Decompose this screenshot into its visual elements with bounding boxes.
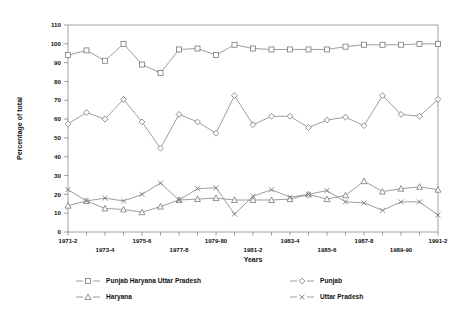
- marker-square: [269, 47, 274, 52]
- legend-label: Punjab: [320, 277, 342, 285]
- marker-triangle: [213, 195, 219, 201]
- chart-figure: 0102030405060708090100110 1971-21973-419…: [0, 0, 461, 314]
- marker-square: [306, 47, 311, 52]
- marker-diamond: [269, 113, 275, 119]
- marker-square: [66, 53, 71, 58]
- marker-diamond: [213, 130, 219, 136]
- marker-square: [214, 53, 219, 58]
- marker-square: [343, 44, 348, 49]
- marker-square: [86, 279, 91, 284]
- marker-square: [362, 42, 367, 47]
- legend-item-uttar-pradesh[interactable]: Uttar Pradesh: [290, 293, 363, 300]
- marker-diamond: [343, 114, 349, 120]
- legend-item-punjab[interactable]: Punjab: [290, 277, 342, 285]
- marker-square: [251, 46, 256, 51]
- x-tick-label: 1971-2: [59, 237, 79, 244]
- legend-label: Uttar Pradesh: [320, 293, 363, 300]
- marker-square: [288, 47, 293, 52]
- marker-cross: [300, 295, 305, 300]
- marker-diamond: [250, 122, 256, 128]
- marker-square: [140, 62, 145, 67]
- x-tick-label: 1981-2: [244, 246, 264, 253]
- marker-cross: [232, 212, 237, 217]
- marker-diamond: [299, 278, 305, 284]
- x-tick-label: 1983-4: [281, 237, 301, 244]
- y-axis-title: Percentage of total: [16, 97, 24, 160]
- marker-triangle: [85, 294, 91, 300]
- marker-cross: [158, 181, 163, 186]
- y-tick-label: 30: [54, 172, 61, 179]
- marker-diamond: [287, 113, 293, 119]
- x-tick-label: 1989-90: [390, 246, 413, 253]
- marker-diamond: [324, 117, 330, 123]
- x-tick-label: 1985-6: [318, 246, 338, 253]
- x-tick-label: 1991-2: [429, 237, 449, 244]
- x-tick-label: 1977-8: [170, 246, 190, 253]
- legend-label: Haryana: [106, 293, 132, 301]
- data-series: [65, 41, 441, 217]
- legend-item-punjab-haryana-uttar-pradesh[interactable]: Punjab Haryana Uttar Pradesh: [76, 277, 201, 285]
- series-punjab-haryana-uttar-pradesh: [66, 41, 441, 75]
- y-tick-label: 100: [51, 40, 62, 47]
- y-tick-label: 50: [54, 134, 61, 141]
- marker-cross: [380, 208, 385, 213]
- legend-item-haryana[interactable]: Haryana: [76, 293, 132, 301]
- y-tick-label: 20: [54, 191, 61, 198]
- marker-square: [84, 48, 89, 53]
- marker-diamond: [65, 121, 71, 127]
- marker-square: [436, 41, 441, 46]
- marker-square: [103, 58, 108, 63]
- marker-diamond: [232, 93, 238, 99]
- y-tick-label: 90: [54, 59, 61, 66]
- marker-diamond: [361, 123, 367, 129]
- y-tick-label: 60: [54, 115, 61, 122]
- y-tick-label: 10: [54, 209, 61, 216]
- y-tick-label: 110: [51, 21, 62, 28]
- y-tick-label: 80: [54, 78, 61, 85]
- marker-triangle: [158, 203, 164, 209]
- x-tick-label: 1973-4: [96, 246, 116, 253]
- marker-triangle: [361, 178, 367, 184]
- marker-square: [232, 42, 237, 47]
- y-tick-label: 40: [54, 153, 61, 160]
- marker-square: [177, 47, 182, 52]
- legend-label: Punjab Haryana Uttar Pradesh: [106, 277, 201, 285]
- marker-square: [158, 70, 163, 75]
- y-tick-label: 70: [54, 96, 61, 103]
- marker-diamond: [84, 110, 90, 116]
- marker-diamond: [158, 145, 164, 151]
- marker-diamond: [195, 119, 201, 125]
- y-tick-label: 0: [58, 228, 62, 235]
- x-axis-ticks: 1971-21973-41975-61977-81979-801981-2198…: [59, 232, 449, 253]
- marker-square: [417, 41, 422, 46]
- marker-square: [325, 47, 330, 52]
- line-chart: 0102030405060708090100110 1971-21973-419…: [0, 0, 461, 314]
- x-tick-label: 1979-80: [205, 237, 228, 244]
- marker-triangle: [343, 192, 349, 198]
- marker-square: [399, 42, 404, 47]
- chart-legend: Punjab Haryana Uttar PradeshPunjabHaryan…: [76, 277, 363, 301]
- x-tick-label: 1975-6: [133, 237, 153, 244]
- marker-square: [380, 42, 385, 47]
- series-punjab: [65, 93, 441, 151]
- marker-diamond: [306, 125, 312, 131]
- marker-cross: [140, 192, 145, 197]
- marker-square: [121, 41, 126, 46]
- marker-square: [195, 46, 200, 51]
- marker-cross: [269, 187, 274, 192]
- marker-diamond: [176, 111, 182, 117]
- marker-triangle: [102, 205, 108, 211]
- x-tick-label: 1987-8: [355, 237, 375, 244]
- x-axis-title: Years: [244, 256, 263, 263]
- marker-triangle: [417, 184, 423, 190]
